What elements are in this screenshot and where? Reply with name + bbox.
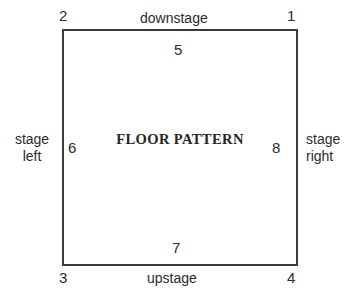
stage-right-label: stage right [306,131,354,165]
edge-number-6-stage-left: 6 [68,140,76,156]
edge-number-8-stage-right: 8 [272,140,280,156]
corner-number-1: 1 [287,8,295,24]
upstage-label: upstage [147,271,197,286]
downstage-label: downstage [140,11,208,26]
edge-number-7-upstage: 7 [172,240,180,256]
stage-left-label-line2: left [8,148,56,165]
stage-left-label: stage left [8,131,56,165]
stage-right-label-line2: right [306,148,354,165]
floor-pattern-label: FLOOR PATTERN [62,131,298,148]
diagram-canvas: FLOOR PATTERN 2 1 3 4 5 6 7 8 downstage … [0,0,354,305]
stage-left-label-line1: stage [8,131,56,148]
corner-number-3: 3 [59,270,67,286]
corner-number-4: 4 [287,270,295,286]
corner-number-2: 2 [59,8,67,24]
edge-number-5-downstage: 5 [174,42,182,58]
stage-right-label-line1: stage [306,131,354,148]
